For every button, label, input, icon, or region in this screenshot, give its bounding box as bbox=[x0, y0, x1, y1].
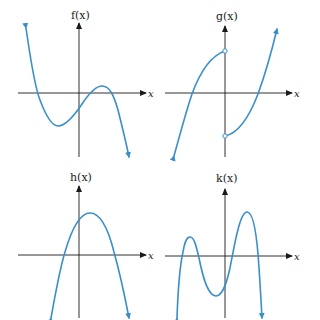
y-axis-label: k(x) bbox=[216, 172, 237, 185]
function-graphs-figure: f(x) x g(x) x h(x) x k(x) x bbox=[0, 0, 320, 320]
x-axis-label: x bbox=[148, 88, 154, 99]
graph-g: g(x) x bbox=[165, 10, 300, 157]
y-axis-label: h(x) bbox=[70, 171, 92, 184]
open-point-top bbox=[223, 49, 227, 53]
curve-k bbox=[177, 212, 262, 318]
curve-f bbox=[26, 28, 129, 157]
y-axis-label: g(x) bbox=[216, 10, 238, 23]
curve-g-left bbox=[174, 51, 225, 156]
graph-h: h(x) x bbox=[18, 171, 154, 318]
graph-k: k(x) x bbox=[165, 172, 300, 318]
curve-g-right bbox=[225, 29, 277, 136]
curve-h bbox=[51, 213, 129, 318]
x-axis-label: x bbox=[148, 250, 154, 261]
x-axis-label: x bbox=[294, 88, 300, 99]
graph-f: f(x) x bbox=[18, 9, 154, 157]
y-axis-label: f(x) bbox=[71, 9, 90, 22]
x-axis-label: x bbox=[294, 251, 300, 262]
open-point-bottom bbox=[223, 134, 227, 138]
